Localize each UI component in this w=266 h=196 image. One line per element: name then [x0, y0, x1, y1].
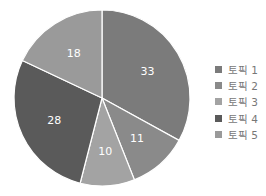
- legend: 토픽 1 토픽 2 토픽 3 토픽 4 토픽 5: [215, 61, 258, 142]
- legend-label: 토픽 3: [228, 94, 258, 109]
- legend-label: 토픽 4: [228, 111, 258, 126]
- legend-item: 토픽 1: [215, 61, 258, 77]
- legend-item: 토픽 4: [215, 110, 258, 126]
- legend-label: 토픽 2: [228, 78, 258, 93]
- legend-label: 토픽 5: [228, 127, 258, 142]
- legend-item: 토픽 5: [215, 126, 258, 142]
- legend-swatch: [215, 131, 222, 138]
- legend-swatch: [215, 82, 222, 89]
- slice-label: 10: [98, 145, 112, 158]
- slice-label: 33: [140, 65, 154, 78]
- slice-label: 11: [130, 132, 144, 145]
- slice-label: 28: [47, 114, 61, 127]
- pie-chart: 3311102818: [0, 0, 200, 196]
- legend-swatch: [215, 115, 222, 122]
- legend-item: 토픽 2: [215, 77, 258, 93]
- legend-label: 토픽 1: [228, 62, 258, 77]
- legend-swatch: [215, 98, 222, 105]
- legend-item: 토픽 3: [215, 94, 258, 110]
- slice-label: 18: [67, 47, 81, 60]
- legend-swatch: [215, 66, 222, 73]
